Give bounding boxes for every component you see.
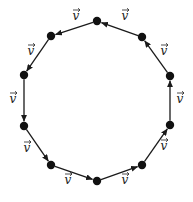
edge-label: v <box>73 8 80 23</box>
edge-arrow <box>101 167 138 180</box>
edge-label: v <box>122 8 129 23</box>
edge-arrow <box>101 23 138 36</box>
vertex-dot <box>47 161 55 169</box>
edge-label: v <box>28 43 35 58</box>
vertex-dot <box>138 33 146 41</box>
vertices-group <box>20 17 174 185</box>
vertex-dot <box>20 71 28 79</box>
edge-label: v <box>122 172 129 187</box>
edge-label: v <box>161 138 168 153</box>
vertex-dot <box>47 32 55 40</box>
edges-group <box>24 22 170 179</box>
labels-group: vvvvvvvvvv <box>10 8 184 187</box>
vertex-dot <box>93 177 101 185</box>
edge-label: v <box>177 91 184 106</box>
edge-label: v <box>65 172 72 187</box>
directed-decagon-diagram: vvvvvvvvvv <box>0 0 193 202</box>
edge-arrow <box>55 166 93 179</box>
vertex-dot <box>166 121 174 129</box>
edge-label: v <box>161 43 168 58</box>
vertex-dot <box>93 17 101 25</box>
edge-arrow <box>55 22 93 34</box>
edge-label: v <box>10 91 17 106</box>
vertex-dot <box>20 122 28 130</box>
vertex-dot <box>166 72 174 80</box>
vertex-dot <box>138 161 146 169</box>
edge-label: v <box>24 140 31 155</box>
